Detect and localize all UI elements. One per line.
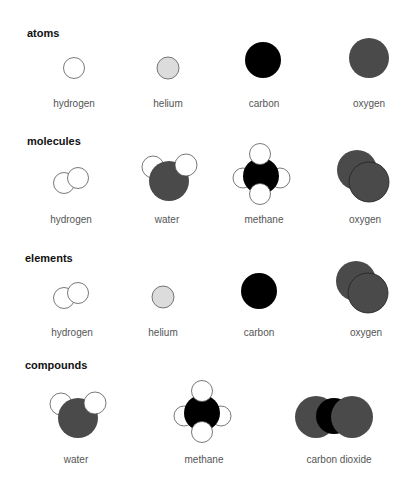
label-molecule-water: water [122, 214, 212, 225]
helium-atom-icon [157, 57, 179, 79]
label-atom-carbon: carbon [219, 98, 309, 109]
label-compound-water: water [31, 454, 121, 465]
hydrogen-molecule-icon [54, 168, 89, 194]
label-atom-oxygen: oxygen [324, 98, 406, 109]
carbon-element-icon [241, 273, 277, 309]
carbon-atom-icon [245, 42, 281, 78]
label-compound-carbon-dioxide: carbon dioxide [294, 454, 384, 465]
water-molecule-icon [142, 154, 197, 201]
oxygen-atom-icon [349, 38, 389, 78]
oxygen-element-icon [336, 261, 388, 313]
label-atom-hydrogen: hydrogen [29, 98, 119, 109]
label-element-hydrogen: hydrogen [27, 327, 117, 338]
particle-diagram [0, 0, 406, 491]
hydrogen-element-icon [54, 283, 89, 309]
oxygen-molecule-icon [337, 150, 389, 202]
label-molecule-methane: methane [219, 214, 309, 225]
water-compound-icon [50, 392, 106, 438]
label-element-carbon: carbon [214, 327, 304, 338]
methane-molecule-icon [233, 144, 290, 205]
label-compound-methane: methane [159, 454, 249, 465]
hydrogen-atom-icon [64, 58, 85, 79]
label-element-helium: helium [118, 327, 208, 338]
label-molecule-hydrogen: hydrogen [26, 214, 116, 225]
label-element-oxygen: oxygen [321, 327, 406, 338]
helium-element-icon [152, 286, 174, 308]
carbon-dioxide-compound-icon [295, 396, 373, 438]
methane-compound-icon [174, 381, 231, 443]
label-atom-helium: helium [123, 98, 213, 109]
label-molecule-oxygen: oxygen [320, 214, 406, 225]
